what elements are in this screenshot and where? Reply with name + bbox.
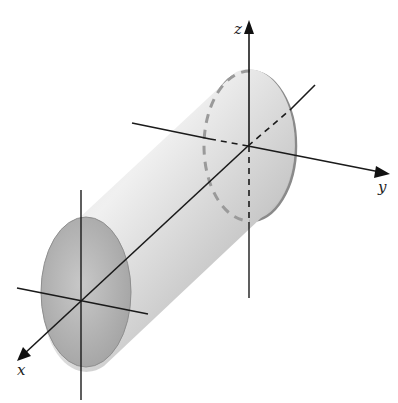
front-cap	[41, 217, 131, 367]
z-axis-label: z	[233, 20, 242, 38]
x-axis-label: x	[17, 361, 26, 379]
y-axis-label: y	[377, 178, 387, 196]
z-axis-arrowhead-icon	[244, 20, 254, 34]
back-diagonal-solid	[290, 85, 315, 110]
y-axis-arrowhead-icon	[374, 166, 390, 178]
cylinder-diagram: z y x	[0, 0, 398, 403]
